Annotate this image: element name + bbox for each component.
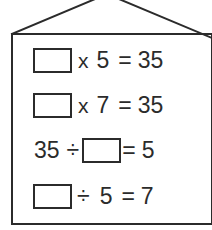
result-number-3: 5 — [136, 138, 155, 163]
equation-row-3: 35 ÷ = 5 — [34, 135, 154, 165]
operand-number-1: 5 — [91, 48, 110, 73]
equations-list: x 5 = 35 x 7 = 35 35 ÷ = 5 ÷ 5 = 7 — [12, 34, 212, 224]
operator-equals-1: = — [109, 48, 131, 73]
operator-multiply-2: x — [72, 93, 91, 118]
result-number-4: 7 — [135, 184, 154, 209]
operator-equals-4: = — [112, 184, 134, 209]
result-number-2: 35 — [132, 93, 164, 118]
operator-equals-3: = — [121, 138, 135, 163]
answer-blank-box-4[interactable] — [33, 184, 72, 209]
operator-divide-4: ÷ — [72, 184, 94, 209]
answer-blank-box-3[interactable] — [82, 138, 121, 163]
operand-number-2: 7 — [91, 93, 110, 118]
operator-multiply-1: x — [72, 48, 91, 73]
equation-row-4: ÷ 5 = 7 — [33, 181, 154, 211]
house-roof-icon — [12, 0, 212, 38]
result-number-1: 35 — [132, 48, 164, 73]
answer-blank-box-1[interactable] — [33, 48, 72, 73]
dividend-number-3: 35 — [34, 138, 60, 163]
divisor-number-4: 5 — [94, 184, 113, 209]
equation-row-1: x 5 = 35 — [33, 45, 163, 75]
operator-equals-2: = — [109, 93, 131, 118]
equation-row-2: x 7 = 35 — [33, 90, 163, 120]
operator-divide-3: ÷ — [60, 138, 83, 163]
fact-family-house-worksheet: x 5 = 35 x 7 = 35 35 ÷ = 5 ÷ 5 = 7 — [0, 0, 212, 230]
answer-blank-box-2[interactable] — [33, 93, 72, 118]
